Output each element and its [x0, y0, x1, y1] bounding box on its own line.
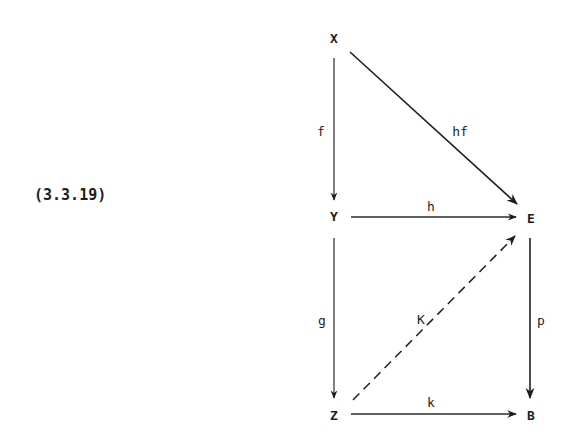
label-p: p — [537, 314, 545, 328]
node-Z: Z — [330, 409, 338, 423]
node-Y: Y — [330, 210, 338, 224]
label-hf: hf — [452, 125, 468, 139]
node-X: X — [330, 32, 338, 46]
node-B: B — [527, 409, 535, 423]
commutative-diagram — [0, 0, 568, 446]
label-k: k — [427, 396, 435, 410]
arrow-K-dashed — [353, 236, 515, 400]
label-f: f — [317, 125, 325, 139]
arrow-hf — [350, 52, 517, 204]
node-E: E — [527, 212, 535, 226]
label-K: K — [417, 313, 425, 327]
label-g: g — [318, 314, 326, 328]
label-h: h — [427, 200, 435, 214]
